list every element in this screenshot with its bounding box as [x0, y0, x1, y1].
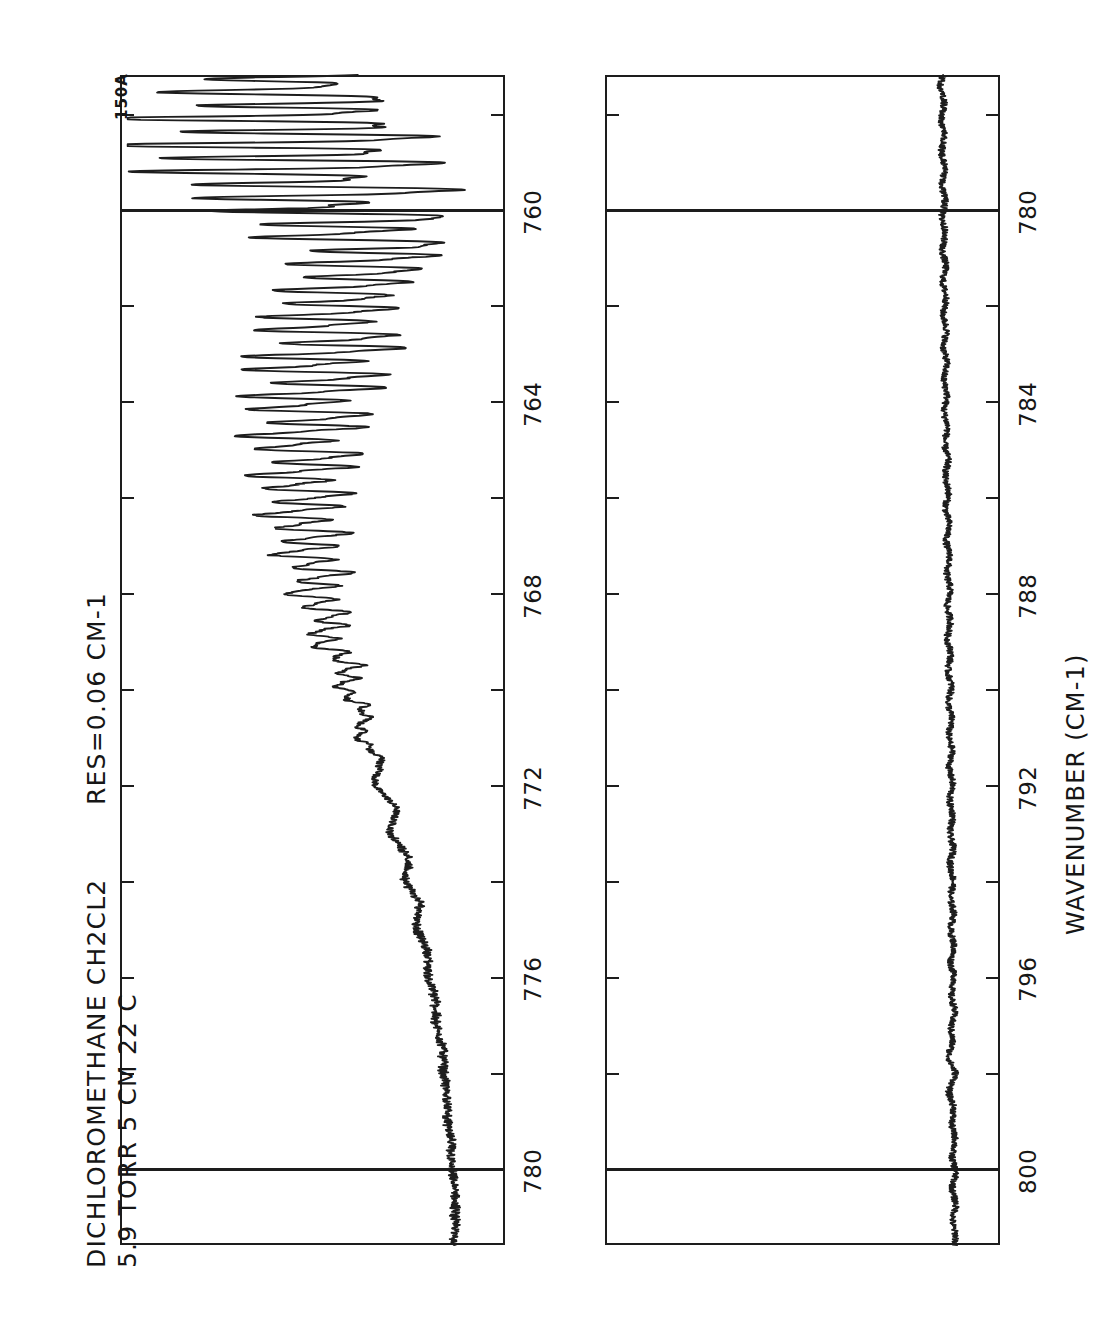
tick-label-764: 764: [520, 382, 546, 427]
upper-panel-wrapper: [120, 75, 505, 1245]
panel-upper: [120, 75, 505, 1245]
panel-lower: [605, 75, 1000, 1245]
tick-label-792: 792: [1015, 765, 1041, 810]
plate-code: 150A: [113, 73, 131, 120]
tick-label-780: 780: [520, 1149, 546, 1194]
spectrum-figure: 760764768772776780780784788792796800 150…: [0, 0, 1103, 1331]
trace-lower: [605, 75, 1000, 1245]
tick-label-788: 788: [1015, 573, 1041, 618]
tick-label-780: 780: [1015, 190, 1041, 235]
tick-label-776: 776: [520, 957, 546, 1002]
tick-label-800: 800: [1015, 1149, 1041, 1194]
sample-title-line2: 5.9 TORR 5 CM 22 C: [113, 993, 142, 1268]
tick-label-784: 784: [1015, 382, 1041, 427]
tick-label-796: 796: [1015, 957, 1041, 1002]
tick-label-760: 760: [520, 190, 546, 235]
sample-title-line1: DICHLOROMETHANE CH2CL2: [82, 879, 111, 1268]
x-axis-label: WAVENUMBER (CM-1): [1062, 653, 1090, 935]
trace-upper: [120, 75, 505, 1245]
resolution-annotation: RES=0.06 CM-1: [82, 592, 111, 805]
lower-panel-wrapper: [605, 75, 1000, 1245]
tick-label-772: 772: [520, 765, 546, 810]
tick-label-768: 768: [520, 573, 546, 618]
